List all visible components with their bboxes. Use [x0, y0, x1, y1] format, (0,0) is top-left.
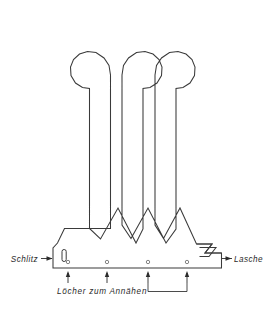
hole-spacing-bracket: [148, 283, 187, 292]
lasche-label: Lasche: [234, 255, 263, 264]
lasche-arrow-icon: [226, 256, 232, 261]
sewing-hole-arrows: [66, 271, 189, 283]
sewing-hole: [146, 260, 149, 263]
schlitz-label: Schlitz: [11, 255, 38, 264]
pattern-drawing: Schlitz Lasche Löcher zum Annähen: [0, 0, 274, 311]
pattern-outline: [53, 52, 222, 269]
hole-arrow-icon: [66, 271, 70, 277]
sewing-hole: [185, 260, 188, 263]
holes-caption: Löcher zum Annähen: [57, 287, 147, 296]
hole-arrow-icon: [105, 271, 109, 277]
hole-arrow-icon: [146, 271, 150, 277]
sewing-hole: [105, 260, 108, 263]
schlitz-slot: [62, 250, 66, 262]
schlitz-arrow-icon: [47, 256, 53, 261]
sewing-pattern-figure: Schlitz Lasche Löcher zum Annähen: [0, 0, 274, 311]
schlitz-callout: Schlitz: [11, 255, 53, 264]
lasche-callout: Lasche: [222, 255, 263, 264]
hole-arrow-icon: [185, 271, 189, 277]
sewing-hole: [66, 260, 69, 263]
